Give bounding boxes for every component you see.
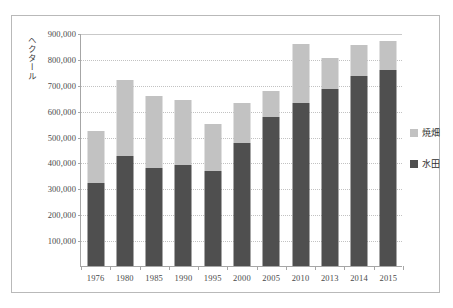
legend-swatch-icon — [410, 160, 418, 168]
y-tick-label: 200,000 — [48, 210, 81, 220]
y-tick-label: 400,000 — [48, 158, 81, 168]
x-tick-label-2010: 2010 — [292, 273, 310, 283]
x-tick-label-2000: 2000 — [233, 273, 251, 283]
y-axis-title: ヘクタール — [26, 36, 35, 81]
y-tick-mark — [78, 60, 81, 61]
x-tick-mark — [169, 266, 170, 270]
x-tick-mark — [81, 266, 82, 270]
x-tick-label-2014: 2014 — [350, 273, 368, 283]
y-tick-mark — [78, 112, 81, 113]
x-tick-label-1985: 1985 — [145, 273, 163, 283]
plot-area: 900,000800,000700,000600,000500,000400,0… — [80, 34, 402, 267]
x-tick-mark — [257, 266, 258, 270]
bar-segment-suiden[interactable] — [175, 165, 192, 266]
bar-segment-suiden[interactable] — [321, 89, 338, 266]
legend-label: 水田 — [422, 157, 440, 170]
bar-stack-1976[interactable] — [87, 131, 104, 266]
x-tick-mark — [110, 266, 111, 270]
x-tick-mark — [140, 266, 141, 270]
y-tick-mark — [78, 215, 81, 216]
chart-legend: 焼畑水田 — [410, 126, 450, 188]
bar-segment-suiden[interactable] — [292, 103, 309, 266]
x-tick-mark — [344, 266, 345, 270]
legend-swatch-icon — [410, 129, 418, 137]
x-tick-label-1990: 1990 — [175, 273, 193, 283]
bar-segment-yakihata[interactable] — [380, 41, 397, 70]
x-tick-mark — [374, 266, 375, 270]
legend-item-suiden[interactable]: 水田 — [410, 157, 450, 170]
y-tick-mark — [78, 86, 81, 87]
y-tick-label: 500,000 — [48, 133, 81, 143]
bar-segment-yakihata[interactable] — [263, 91, 280, 117]
x-tick-label-2005: 2005 — [262, 273, 280, 283]
y-tick-label: 800,000 — [48, 55, 81, 65]
bar-stack-1985[interactable] — [146, 96, 163, 266]
bar-segment-suiden[interactable] — [380, 70, 397, 266]
x-tick-label-1976: 1976 — [87, 273, 105, 283]
x-tick-label-1980: 1980 — [116, 273, 134, 283]
y-tick-label: 700,000 — [48, 81, 81, 91]
bar-segment-yakihata[interactable] — [116, 80, 133, 156]
bar-stack-2010[interactable] — [292, 44, 309, 266]
bar-segment-suiden[interactable] — [87, 183, 104, 266]
bar-stack-2000[interactable] — [234, 103, 251, 266]
y-tick-label: 100,000 — [48, 236, 81, 246]
legend-item-yakihata[interactable]: 焼畑 — [410, 126, 450, 139]
y-tick-label: 600,000 — [48, 107, 81, 117]
y-tick-label: 900,000 — [48, 29, 81, 39]
x-tick-label-2013: 2013 — [321, 273, 339, 283]
y-tick-mark — [78, 34, 81, 35]
bar-segment-yakihata[interactable] — [351, 45, 368, 75]
gridline — [81, 34, 402, 35]
bar-segment-suiden[interactable] — [263, 117, 280, 266]
y-tick-mark — [78, 189, 81, 190]
bar-stack-2005[interactable] — [263, 91, 280, 266]
bar-stack-2015[interactable] — [380, 41, 397, 266]
bar-segment-suiden[interactable] — [351, 76, 368, 266]
bar-segment-yakihata[interactable] — [146, 96, 163, 167]
x-tick-label-2015: 2015 — [379, 273, 397, 283]
bar-segment-yakihata[interactable] — [234, 103, 251, 143]
x-tick-mark — [227, 266, 228, 270]
bar-stack-1990[interactable] — [175, 100, 192, 266]
bar-segment-suiden[interactable] — [146, 168, 163, 266]
chart-figure: ヘクタール 900,000800,000700,000600,000500,00… — [11, 15, 440, 293]
bar-segment-yakihata[interactable] — [321, 58, 338, 89]
y-tick-label: 300,000 — [48, 184, 81, 194]
bar-segment-yakihata[interactable] — [292, 44, 309, 103]
bar-stack-2014[interactable] — [351, 45, 368, 266]
y-tick-mark — [78, 163, 81, 164]
bar-segment-suiden[interactable] — [204, 171, 221, 266]
legend-label: 焼畑 — [422, 126, 440, 139]
bar-segment-yakihata[interactable] — [87, 131, 104, 183]
x-tick-mark — [315, 266, 316, 270]
x-tick-mark — [403, 266, 404, 270]
y-tick-mark — [78, 241, 81, 242]
y-tick-mark — [78, 138, 81, 139]
bar-segment-suiden[interactable] — [234, 143, 251, 266]
bar-stack-2013[interactable] — [321, 58, 338, 266]
x-tick-mark — [198, 266, 199, 270]
x-tick-mark — [286, 266, 287, 270]
bar-segment-suiden[interactable] — [116, 156, 133, 266]
bar-stack-1980[interactable] — [116, 80, 133, 266]
x-tick-label-1995: 1995 — [204, 273, 222, 283]
bar-segment-yakihata[interactable] — [175, 100, 192, 165]
bar-stack-1995[interactable] — [204, 124, 221, 266]
bar-segment-yakihata[interactable] — [204, 124, 221, 171]
